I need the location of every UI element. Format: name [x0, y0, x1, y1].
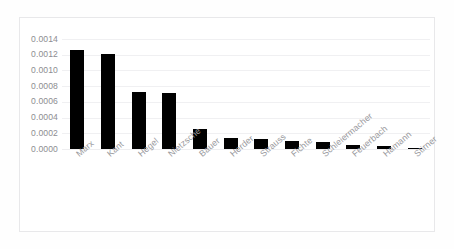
y-axis-tick-label: 0.0014	[31, 35, 58, 44]
y-axis-tick-label: 0.0010	[31, 66, 58, 75]
y-axis-tick-label: 0.0012	[31, 50, 58, 59]
y-axis-tick-label: 0.0006	[31, 97, 58, 106]
bar	[70, 50, 84, 149]
y-axis-tick-label: 0.0004	[31, 113, 58, 122]
y-axis-tick-labels: 0.00140.00120.00100.00080.00060.00040.00…	[19, 17, 61, 232]
bar	[162, 93, 176, 149]
bar	[132, 92, 146, 149]
y-axis-tick-label: 0.0000	[31, 145, 58, 154]
bar	[101, 54, 115, 149]
y-axis-tick-label: 0.0008	[31, 82, 58, 91]
x-axis-category-labels: MarxKantHegelNietzscheBauerHerderStrauss…	[62, 151, 430, 231]
bar-chart: 0.00140.00120.00100.00080.00060.00040.00…	[0, 0, 454, 249]
y-axis-tick-label: 0.0002	[31, 129, 58, 138]
